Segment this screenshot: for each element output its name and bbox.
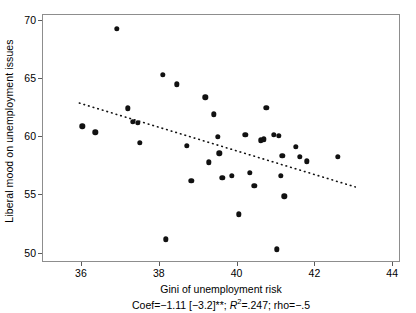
data-point [137, 140, 142, 145]
coef-stars: ** [216, 299, 224, 311]
statistics-annotation: Coef=−1.11 [−3.2]**; R2=.247; rho=−.5 [42, 297, 400, 311]
data-point [252, 183, 257, 188]
rho-value: −.5 [295, 299, 310, 311]
data-point [297, 154, 302, 159]
data-point [215, 134, 220, 139]
semicolon-2: ; [268, 299, 271, 311]
data-point [189, 178, 194, 183]
semicolon-1: ; [224, 299, 227, 311]
data-point [125, 106, 130, 111]
data-point [263, 105, 268, 110]
data-point [219, 175, 224, 180]
data-point [114, 26, 119, 31]
data-point [247, 170, 252, 175]
data-point [236, 212, 241, 217]
coef-value: −1.11 [160, 299, 186, 311]
data-point [80, 124, 85, 129]
data-point [217, 150, 222, 155]
coef-bracket: [−3.2] [189, 299, 216, 311]
rho-label: rho [274, 299, 289, 311]
data-point [93, 129, 98, 134]
data-point [211, 111, 216, 116]
data-point [282, 194, 287, 199]
scatter-plot-figure: Liberal mood on unemployment issues 5055… [0, 0, 416, 313]
r-squared-value: .247 [248, 299, 268, 311]
data-point [135, 120, 140, 125]
data-point [304, 159, 309, 164]
data-points-layer [0, 0, 416, 313]
data-point [280, 153, 285, 158]
data-point [174, 82, 179, 87]
data-point [184, 143, 189, 148]
data-point [229, 173, 234, 178]
coef-label: Coef [132, 299, 154, 311]
data-point [163, 237, 168, 242]
data-point [335, 154, 340, 159]
data-point [278, 173, 283, 178]
data-point [293, 144, 298, 149]
data-point [206, 160, 211, 165]
data-point [274, 246, 279, 251]
data-point [242, 132, 247, 137]
data-point [203, 95, 208, 100]
x-axis-label: Gini of unemployment risk [42, 283, 400, 295]
data-point [261, 136, 266, 141]
data-point [160, 72, 165, 77]
data-point [276, 133, 281, 138]
